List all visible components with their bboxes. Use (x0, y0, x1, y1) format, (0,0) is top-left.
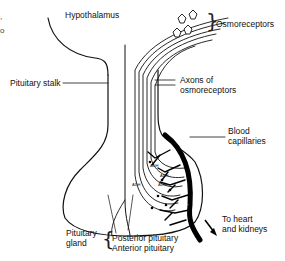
label-posterior-pituitary: Posterior pituitary (112, 233, 178, 243)
adh-tag: ADH (132, 182, 141, 187)
label-gland-line2: gland (66, 238, 87, 248)
label-heart-line1: To heart (222, 214, 253, 224)
arrow-to-heart-icon (205, 220, 217, 236)
label-axons-line1: Axons of (180, 75, 213, 85)
adh-tag: ADH (160, 173, 169, 178)
label-blood-line1: Blood (228, 126, 250, 136)
adh-tag: ADH (158, 182, 167, 187)
label-pituitary-stalk: Pituitary stalk (10, 78, 61, 88)
edge-fragment: o (0, 26, 4, 35)
label-axons-line2: osmoreceptors (180, 85, 236, 95)
adh-tag: ADH (150, 163, 159, 168)
stalk-left-wall (63, 75, 130, 236)
label-hypothalamus: Hypothalamus (65, 10, 119, 20)
label-heart-line2: and kidneys (222, 224, 267, 234)
label-osmoreceptors: Osmoreceptors (216, 19, 274, 29)
label-blood-line2: capillaries (228, 136, 266, 146)
edge-fragment: , (0, 12, 2, 21)
blood-capillaries (148, 135, 200, 240)
label-gland-line1: Pituitary (66, 228, 97, 238)
osmoreceptor-axons (135, 18, 228, 211)
osmoreceptor-cells (173, 10, 197, 37)
hypothalamus-outline (48, 18, 108, 75)
label-anterior-pituitary: Anterior pituitary (112, 243, 174, 253)
